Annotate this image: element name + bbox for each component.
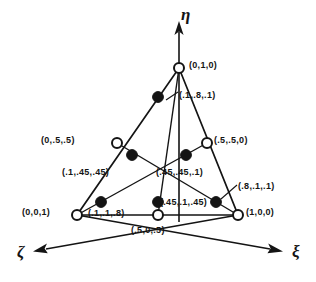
node-apex-marker[interactable] [174,63,184,73]
node-right-lower-interior-marker[interactable] [211,197,222,208]
node-left-upper-interior-marker[interactable] [127,150,138,161]
node-right-corner-marker[interactable] [233,210,243,220]
leader-line-right-lower-interior [221,185,237,199]
zeta-axis-label: ζ [17,243,25,260]
node-apex-label: (0,1,0) [189,61,217,70]
cevian-apex-to-bottom-mid [158,68,179,215]
node-left-corner-marker[interactable] [72,210,82,220]
node-right-corner-label: (1,0,0) [246,208,274,217]
node-right-upper-interior-label: (.45,.45,.1) [156,168,203,177]
node-left-lower-interior-marker[interactable] [96,197,107,208]
node-right-upper-interior-marker[interactable] [181,150,192,161]
node-left-corner-label: (0,0,1) [22,208,50,217]
node-right-mid-marker[interactable] [202,138,212,148]
node-bottom-interior-label: (.45,.1,.45) [160,198,207,207]
node-bottom-mid-marker[interactable] [153,210,163,220]
interior-nodes-group [96,92,222,208]
node-top-interior-marker[interactable] [153,92,164,103]
zeta-axis-arrowhead [33,244,48,254]
node-left-upper-interior-label: (.1,.45,.45) [62,168,109,177]
eta-axis-label: η [181,6,190,23]
node-left-mid-marker[interactable] [112,138,122,148]
node-right-lower-interior-label: (.8,.1,.1) [238,182,275,191]
leader-line-top-interior [166,92,178,100]
xi-axis-label: ξ [292,243,300,260]
node-right-mid-label: (.5,.5,0) [214,136,248,145]
node-bottom-mid-label: (.5,0,.5) [131,226,165,235]
figure-root: η ζ ξ (0,1,0) (0,0,1) (1,0,0) (0,.5,.5) … [0,0,316,282]
node-left-lower-interior-label: (.1,.1,.8) [88,209,125,218]
node-left-mid-label: (0,.5,.5) [41,136,75,145]
node-top-interior-label: (.1,.8,.1) [179,91,216,100]
